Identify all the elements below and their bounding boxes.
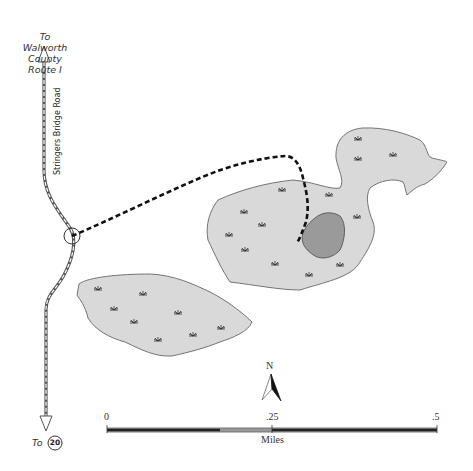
route-shield-number: 20 [49, 437, 61, 449]
scale-tick-05: .5 [432, 411, 440, 422]
north-arrow-icon [262, 374, 281, 401]
scale-bar [107, 425, 437, 433]
scale-unit-label: Miles [261, 434, 284, 445]
label-line-2: Walworth County [10, 42, 80, 64]
scale-tick-025: .25 [266, 411, 279, 422]
scale-tick-0: 0 [104, 411, 109, 422]
north-destination-label: To Walworth County Route I [10, 31, 80, 75]
upper-marsh [207, 128, 447, 290]
south-road-arrow-icon [40, 416, 52, 431]
lower-marsh [77, 274, 252, 356]
label-line-1: To [10, 31, 80, 42]
road-name-label: Stringers Bridge Road [53, 88, 62, 176]
label-line-3: Route I [10, 64, 80, 75]
compass-north-label: N [266, 360, 273, 371]
south-destination-label: To [32, 437, 42, 448]
